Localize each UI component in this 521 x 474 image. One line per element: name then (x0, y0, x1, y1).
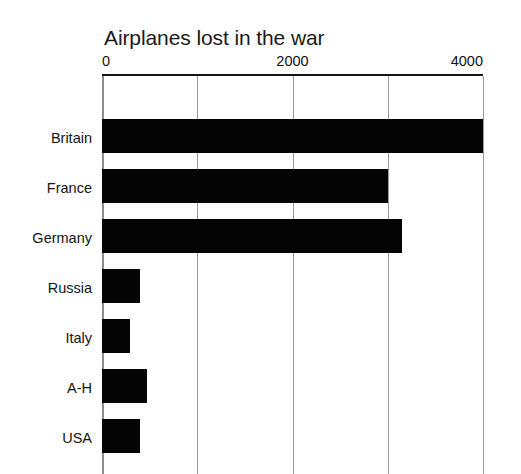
y-category-label: Italy (0, 313, 92, 363)
bar-row (102, 163, 483, 213)
bar (102, 369, 147, 403)
bar-chart: Airplanes lost in the war 020004000 Brit… (0, 0, 521, 474)
bar (102, 419, 140, 453)
bar-row (102, 113, 483, 163)
x-tick-label: 0 (102, 53, 110, 69)
y-category-label: Russia (0, 263, 92, 313)
bar (102, 269, 140, 303)
y-category-label: France (0, 163, 92, 213)
chart-title: Airplanes lost in the war (104, 25, 324, 51)
bar-row (102, 213, 483, 263)
y-axis-category-labels: BritainFranceGermanyRussiaItalyA-HUSA (0, 74, 92, 474)
y-category-label: Germany (0, 213, 92, 263)
y-category-label: USA (0, 413, 92, 463)
bar (102, 119, 483, 153)
x-tick-label: 4000 (451, 53, 483, 69)
bar-row (102, 313, 483, 363)
bar-row (102, 413, 483, 463)
bar (102, 219, 402, 253)
bar (102, 319, 130, 353)
x-tick-label: 2000 (276, 53, 308, 69)
bar-row (102, 263, 483, 313)
gridline (483, 76, 484, 474)
y-category-label: A-H (0, 363, 92, 413)
bar-row (102, 363, 483, 413)
bar (102, 169, 388, 203)
y-category-label: Britain (0, 113, 92, 163)
plot-area (102, 74, 483, 474)
